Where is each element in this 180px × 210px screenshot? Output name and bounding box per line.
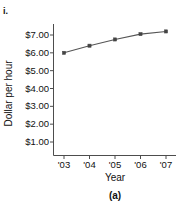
x-axis-tick-label: '06 (128, 160, 154, 170)
x-axis-tick-label: '04 (77, 160, 103, 170)
x-axis-title: Year (53, 172, 177, 183)
data-point-marker (164, 30, 167, 33)
data-series-line (64, 31, 166, 52)
x-axis-tick-label: '05 (102, 160, 128, 170)
x-axis-tick-label: '07 (153, 160, 179, 170)
x-axis-tick-label: '03 (51, 160, 77, 170)
data-point-marker (113, 38, 116, 41)
data-point-marker (88, 44, 91, 47)
figure-caption: (a) (53, 190, 177, 201)
data-point-marker (139, 33, 142, 36)
data-point-marker (62, 51, 65, 54)
axis-lines (54, 24, 177, 156)
x-axis-tick-labels: '03'04'05'06'07 (0, 155, 180, 169)
figure-panel: i. $1.00$2.00$3.00$4.00$5.00$6.00$7.00 D… (0, 0, 180, 210)
y-axis-title: Dollar per hour (3, 39, 14, 149)
